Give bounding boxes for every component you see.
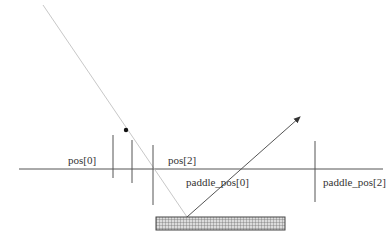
label-paddle-pos2: paddle_pos[2]: [323, 177, 386, 188]
label-pos2: pos[2]: [168, 155, 196, 166]
ball-dot: [124, 128, 128, 132]
incoming-path-line: [43, 5, 187, 217]
outgoing-path-arrow: [187, 117, 300, 217]
diagram-canvas: [0, 0, 391, 248]
label-pos0: pos[0]: [68, 155, 96, 166]
paddle: [156, 217, 285, 230]
label-paddle-pos0: paddle_pos[0]: [186, 177, 249, 188]
